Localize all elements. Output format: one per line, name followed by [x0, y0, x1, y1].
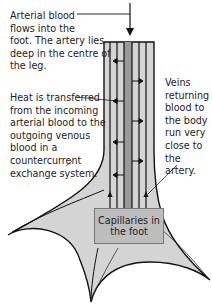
capillaries-label: Capillaries in the foot	[94, 208, 164, 244]
arterial-label: Arterial blood flows into the foot. The …	[10, 10, 111, 73]
heat-transfer-label: Heat is transferred from the incoming ar…	[10, 92, 106, 180]
veins-label: Veins returning blood to the body run ve…	[165, 77, 212, 178]
artery	[124, 42, 132, 208]
